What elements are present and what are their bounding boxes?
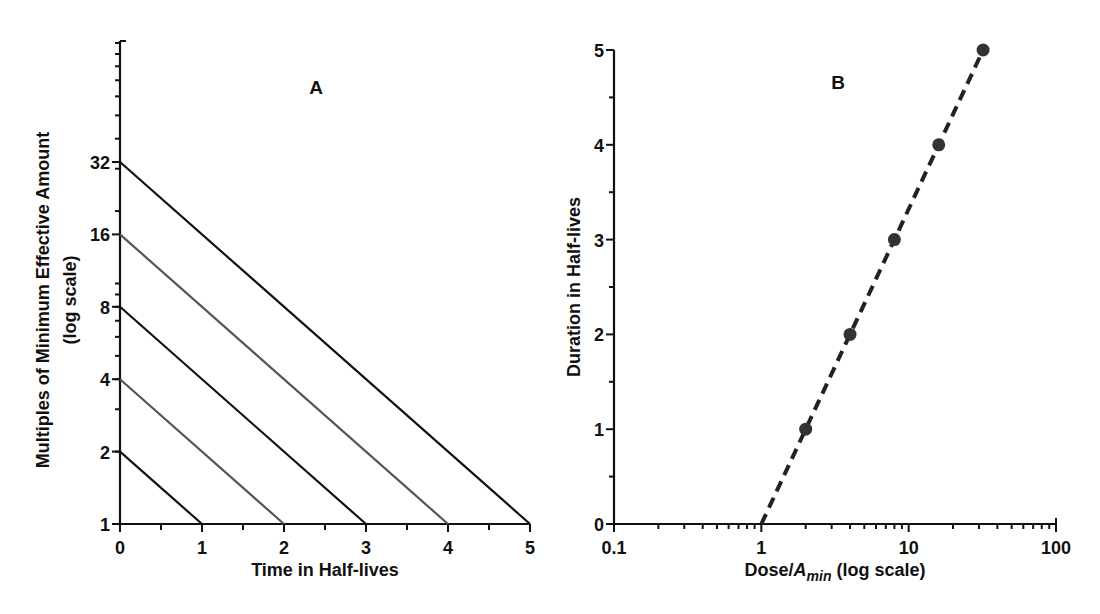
x-axis-title: Dose/Amin (log scale) (745, 560, 926, 584)
x-tick-label: 4 (443, 538, 453, 558)
y-axis-subtitle: (log scale) (60, 255, 80, 344)
y-tick-label: 4 (594, 136, 604, 156)
panel-a-chart: 12481632012345Time in Half-livesMultiple… (33, 41, 535, 580)
y-tick-label: 3 (594, 231, 604, 251)
y-tick-label: 4 (100, 370, 110, 390)
decay-line (120, 162, 530, 524)
x-tick-label: 2 (279, 538, 289, 558)
y-tick-label: 5 (594, 41, 604, 61)
y-tick-label: 0 (594, 515, 604, 535)
data-point (844, 328, 857, 341)
x-tick-label: 10 (899, 538, 919, 558)
y-axis-title: Multiples of Minimum Effective Amount (33, 132, 53, 468)
y-axis-title: Duration in Half-lives (564, 197, 584, 377)
x-tick-label: 3 (361, 538, 371, 558)
x-tick-label: 5 (525, 538, 535, 558)
data-point (977, 44, 990, 57)
data-point (888, 233, 901, 246)
x-tick-label: 1 (756, 538, 766, 558)
y-tick-label: 1 (100, 515, 110, 535)
x-axis-title: Time in Half-lives (251, 560, 399, 580)
panel-b-chart: 0123450.1110100Dose/Amin (log scale)Dura… (564, 41, 1071, 584)
x-tick-label: 100 (1041, 538, 1071, 558)
x-tick-label: 0 (115, 538, 125, 558)
y-tick-label: 32 (90, 153, 110, 173)
panel-label-b: B (831, 72, 845, 93)
y-tick-label: 16 (90, 225, 110, 245)
decay-line (120, 307, 366, 524)
y-tick-label: 2 (594, 325, 604, 345)
decay-line (120, 452, 202, 524)
y-tick-label: 2 (100, 443, 110, 463)
figure: 12481632012345Time in Half-livesMultiple… (0, 0, 1100, 614)
fit-line-dashed (761, 50, 983, 524)
data-point (799, 423, 812, 436)
data-point (932, 138, 945, 151)
decay-line (120, 379, 284, 524)
decay-line (120, 234, 448, 524)
panel-label-a: A (309, 77, 323, 98)
y-tick-label: 8 (100, 298, 110, 318)
y-tick-label: 1 (594, 420, 604, 440)
x-tick-label: 0.1 (601, 538, 626, 558)
x-tick-label: 1 (197, 538, 207, 558)
